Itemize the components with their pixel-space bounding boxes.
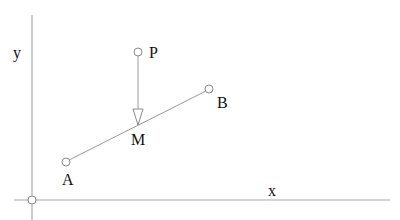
point-b bbox=[205, 85, 213, 93]
point-p bbox=[134, 48, 142, 56]
projection-diagram: y x P A B M bbox=[0, 0, 400, 220]
x-axis-label: x bbox=[268, 182, 276, 199]
projection-arrowhead-icon bbox=[133, 109, 143, 125]
label-b: B bbox=[217, 94, 228, 111]
y-axis-label: y bbox=[13, 44, 21, 62]
origin-point bbox=[28, 196, 36, 204]
label-p: P bbox=[149, 44, 158, 61]
point-a bbox=[62, 158, 70, 166]
label-a: A bbox=[62, 171, 74, 188]
label-m: M bbox=[131, 131, 145, 148]
